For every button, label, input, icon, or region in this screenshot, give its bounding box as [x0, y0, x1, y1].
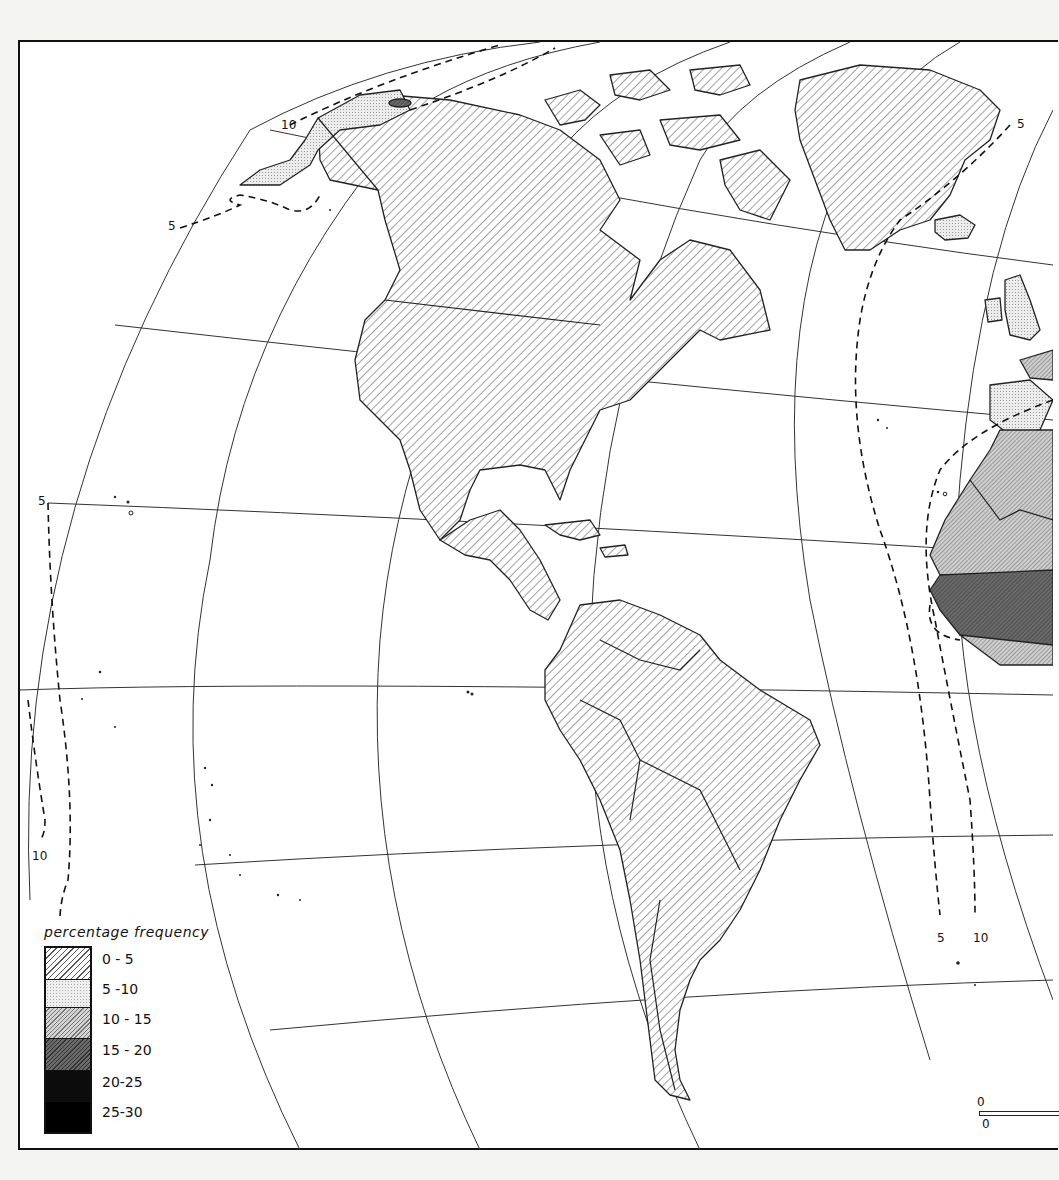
legend-swatch-25-30 [46, 1102, 90, 1132]
legend-swatch-10-15 [46, 1008, 90, 1039]
scale-top-label: 0 [977, 1095, 985, 1109]
isoline-label: 5 [937, 932, 945, 944]
legend-swatch-5-10 [46, 980, 90, 1008]
legend-swatches [44, 946, 92, 1134]
legend-swatch-0-5 [46, 948, 90, 980]
scale-bottom-label: 0 [982, 1117, 990, 1131]
europe [985, 275, 1053, 435]
legend: percentage frequency 0 - 5 5 -10 10 - 15… [44, 924, 244, 1134]
legend-label: 15 - 20 [102, 1034, 152, 1067]
isoline-label: 10 [281, 119, 296, 131]
isoline-label: 10 [32, 850, 47, 862]
isoline-label: 5 [1017, 118, 1025, 130]
legend-label: 0 - 5 [102, 944, 152, 975]
legend-labels: 0 - 5 5 -10 10 - 15 15 - 20 20-25 25-30 [102, 946, 152, 1127]
legend-title: percentage frequency [44, 924, 244, 940]
legend-label: 20-25 [102, 1067, 152, 1097]
iceland [935, 215, 975, 240]
isoline-label: 5 [168, 220, 176, 232]
isoline-label: 10 [973, 932, 988, 944]
scale-bar-line [979, 1111, 1059, 1116]
legend-label: 25-30 [102, 1097, 152, 1127]
isoline-label: 5 [38, 495, 46, 507]
legend-swatch-15-20 [46, 1039, 90, 1071]
south-america [545, 600, 820, 1100]
legend-swatch-20-25 [46, 1071, 90, 1102]
legend-label: 5 -10 [102, 975, 152, 1004]
west-africa [930, 430, 1053, 665]
north-america [240, 90, 770, 620]
legend-label: 10 - 15 [102, 1004, 152, 1034]
